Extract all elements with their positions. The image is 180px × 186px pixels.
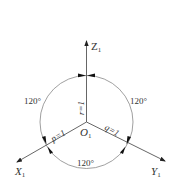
z-axis-label: Z1	[91, 40, 102, 54]
isometric-axes-diagram: Z1 X1 Y1 O1 r=1 p=1 q=1 120° 120° 120°	[0, 0, 180, 186]
y-axis	[87, 122, 166, 161]
angle-label-left: 120°	[24, 96, 42, 106]
p-coefficient-label: p=1	[48, 128, 67, 145]
origin-label: O1	[80, 126, 92, 140]
angle-label-bottom: 120°	[77, 158, 95, 168]
y-axis-label: Y1	[151, 165, 161, 179]
x-axis	[17, 122, 87, 162]
x-axis-label: X1	[14, 165, 26, 179]
angle-label-right: 120°	[130, 96, 148, 106]
q-coefficient-label: q=1	[103, 122, 121, 138]
r-coefficient-label: r=1	[76, 101, 86, 115]
